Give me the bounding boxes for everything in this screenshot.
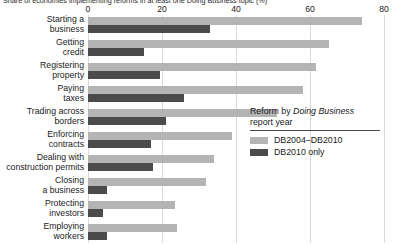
category-label-line2: borders — [0, 117, 84, 127]
category-label: Payingtaxes — [0, 84, 84, 103]
category-label: Registeringproperty — [0, 61, 84, 80]
legend-items: DB2004–DB2010DB2010 only — [250, 135, 402, 158]
category-label: Enforcingcontracts — [0, 130, 84, 149]
legend-label: DB2004–DB2010 — [274, 135, 342, 146]
legend-title-line2: report year — [250, 117, 293, 127]
category-label: Dealing withconstruction permits — [0, 153, 84, 172]
bar — [88, 163, 153, 171]
bar — [88, 25, 210, 33]
bar — [88, 94, 184, 102]
category-label: Gettingcredit — [0, 38, 84, 57]
bar — [88, 186, 107, 194]
bar — [88, 224, 177, 232]
category-label: Starting abusiness — [0, 15, 84, 34]
category-label-line2: a business — [0, 186, 84, 196]
category-label: Protectinginvestors — [0, 199, 84, 218]
category-label: Employingworkers — [0, 222, 84, 241]
legend-swatch — [250, 149, 268, 156]
gridline-40 — [236, 15, 237, 243]
bar — [88, 178, 206, 186]
bar — [88, 63, 316, 71]
bar — [88, 48, 144, 56]
bar — [88, 40, 329, 48]
y-axis-category-labels: Starting abusinessGettingcreditRegisteri… — [0, 15, 84, 243]
bar — [88, 17, 362, 25]
x-tick-label-60: 60 — [305, 4, 315, 15]
legend-label: DB2010 only — [274, 147, 324, 158]
legend-title-prefix: Reform by — [250, 106, 293, 116]
category-label: Trading acrossborders — [0, 107, 84, 126]
category-label-line2: contracts — [0, 140, 84, 150]
x-tick-label-20: 20 — [157, 4, 167, 15]
x-axis-tick-labels: 020406080 — [0, 4, 407, 15]
legend-divider — [250, 130, 380, 131]
legend-title: Reform by Doing Business report year — [250, 106, 400, 127]
bar — [88, 232, 107, 240]
legend-item[interactable]: DB2004–DB2010 — [250, 135, 402, 146]
category-label-line2: property — [0, 71, 84, 81]
category-label-line2: business — [0, 25, 84, 35]
category-label-line2: workers — [0, 232, 84, 242]
legend-swatch — [250, 137, 268, 144]
category-label-line2: taxes — [0, 94, 84, 104]
bar — [88, 109, 277, 117]
x-tick-label-80: 80 — [379, 4, 389, 15]
bar — [88, 201, 175, 209]
bar — [88, 132, 232, 140]
bar — [88, 86, 303, 94]
bar — [88, 71, 160, 79]
x-tick-label-0: 0 — [86, 4, 91, 15]
legend-title-emphasis: Doing Business — [293, 106, 354, 116]
x-tick-label-40: 40 — [231, 4, 241, 15]
category-label-line2: investors — [0, 209, 84, 219]
bar — [88, 209, 103, 217]
legend-item[interactable]: DB2010 only — [250, 147, 402, 158]
chart-legend: Reform by Doing Business report year DB2… — [250, 106, 402, 159]
bar — [88, 155, 214, 163]
category-label: Closinga business — [0, 176, 84, 195]
bar — [88, 140, 151, 148]
bar — [88, 117, 166, 125]
category-label-line2: construction permits — [0, 163, 84, 173]
bar-chart: Share of economies implementing reforms … — [0, 0, 407, 244]
category-label-line2: credit — [0, 48, 84, 58]
